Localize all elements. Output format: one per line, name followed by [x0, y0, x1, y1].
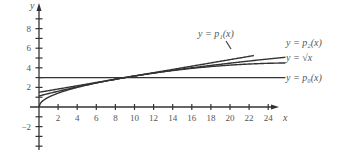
- label-sqrt: y = √x: [285, 52, 313, 63]
- label-p2: y = p₂(x): [285, 37, 322, 49]
- y-tick-label: 6: [27, 43, 32, 53]
- x-tick-label: 8: [113, 113, 118, 123]
- y-tick-label: −2: [21, 122, 31, 132]
- x-tick-label: 4: [75, 113, 80, 123]
- x-axis-arrow-icon: [271, 105, 279, 110]
- axes: 24681012141618202224−22468: [21, 3, 279, 150]
- x-tick-label: 10: [130, 113, 140, 123]
- x-tick-label: 12: [149, 113, 158, 123]
- y-tick-label: 4: [27, 63, 32, 73]
- curve-p2: [39, 63, 285, 96]
- curve-labels: y = p₁(x) y = p₂(x) y = √x y = p₀(x) x y: [29, 0, 322, 123]
- x-tick-label: 16: [187, 113, 197, 123]
- y-axis-label: y: [29, 0, 35, 11]
- x-tick-label: 24: [264, 113, 274, 123]
- x-tick-label: 6: [94, 113, 99, 123]
- x-tick-label: 2: [56, 113, 61, 123]
- x-tick-label: 18: [206, 113, 216, 123]
- x-tick-label: 22: [245, 113, 254, 123]
- y-tick-label: 8: [27, 24, 32, 34]
- label-p1: y = p₁(x): [197, 28, 234, 40]
- chart-svg: 24681012141618202224−22468 y = p₁(x) y =…: [0, 0, 342, 154]
- label-p0: y = p₀(x): [285, 72, 322, 84]
- x-axis-label: x: [282, 112, 288, 123]
- x-tick-label: 20: [226, 113, 236, 123]
- x-tick-label: 14: [168, 113, 178, 123]
- label-p1-pointer: [226, 41, 231, 49]
- curves: [39, 56, 285, 107]
- y-axis-arrow-icon: [37, 3, 42, 11]
- y-tick-label: 2: [27, 82, 32, 92]
- chart-figure: 24681012141618202224−22468 y = p₁(x) y =…: [0, 0, 342, 154]
